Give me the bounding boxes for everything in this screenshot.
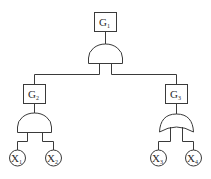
- event-g3: G3: [166, 85, 188, 104]
- event-x1: X1: [10, 150, 26, 166]
- or-gate-icon: [160, 114, 194, 132]
- and-gate-icon: [89, 44, 123, 63]
- event-x4: X4: [186, 150, 202, 166]
- event-x2: X2: [46, 150, 62, 166]
- connector-gate-g2: [35, 64, 100, 85]
- and-gate-icon: [18, 113, 52, 132]
- connector-g2-x2: [43, 133, 54, 151]
- connector-gate-g3: [112, 64, 177, 85]
- event-x3: X3: [151, 150, 167, 166]
- event-g1: G1: [95, 13, 117, 32]
- fault-tree-diagram: G1 G2 X1 X2 G3 X3 X4: [0, 0, 211, 179]
- connector-g2-x1: [18, 133, 28, 151]
- event-g2: G2: [24, 85, 46, 104]
